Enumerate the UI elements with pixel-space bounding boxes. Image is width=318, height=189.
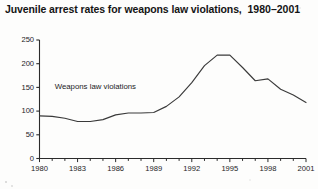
x-tick-label: 1995 bbox=[215, 164, 245, 173]
y-tick-label: 50 bbox=[10, 130, 34, 139]
chart-page: Juvenile arrest rates for weapons law vi… bbox=[0, 0, 318, 189]
y-tick-label: 150 bbox=[10, 83, 34, 92]
line-chart-svg bbox=[0, 0, 318, 189]
x-tick-label: 1983 bbox=[63, 164, 93, 173]
x-tick-label: 2001 bbox=[291, 164, 318, 173]
chart-plot-area: 0 50 100 150 200 250 1980 1983 1986 1989… bbox=[0, 0, 318, 189]
y-tick-label: 200 bbox=[10, 59, 34, 68]
x-tick-label: 1989 bbox=[139, 164, 169, 173]
x-tick-label: 1986 bbox=[101, 164, 131, 173]
y-tick-label: 100 bbox=[10, 106, 34, 115]
x-tick-label: 1992 bbox=[177, 164, 207, 173]
x-tick-label: 1980 bbox=[25, 164, 55, 173]
series-inline-label: Weapons law violations bbox=[55, 82, 136, 91]
y-tick-label: 0 bbox=[10, 154, 34, 163]
y-tick-label: 250 bbox=[10, 35, 34, 44]
x-tick-label: 1998 bbox=[253, 164, 283, 173]
